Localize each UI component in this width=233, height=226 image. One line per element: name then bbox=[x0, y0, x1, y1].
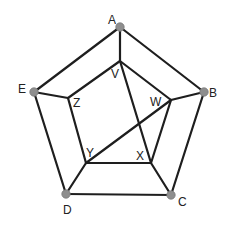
edge-w-x bbox=[151, 100, 171, 163]
vertex-label-e: E bbox=[18, 82, 26, 96]
edge-e-z bbox=[34, 92, 68, 98]
edge-c-d bbox=[66, 194, 171, 195]
edge-w-y bbox=[86, 100, 171, 163]
vertex-label-x: X bbox=[136, 149, 144, 163]
vertex-label-b: B bbox=[209, 86, 217, 100]
edge-b-w bbox=[171, 92, 204, 100]
graph-diagram: ABCDEVWXYZ bbox=[0, 0, 233, 226]
vertex-a bbox=[116, 23, 124, 31]
vertex-label-y: Y bbox=[86, 146, 94, 160]
vertex-c bbox=[167, 191, 175, 199]
vertex-label-c: C bbox=[178, 195, 187, 209]
edge-b-c bbox=[171, 92, 204, 195]
vertex-d bbox=[62, 190, 70, 198]
edge-v-w bbox=[120, 61, 171, 100]
edge-d-e bbox=[34, 92, 66, 194]
vertex-e bbox=[30, 88, 38, 96]
edge-d-y bbox=[66, 163, 86, 194]
vertex-label-w: W bbox=[150, 95, 162, 109]
label-layer: ABCDEVWXYZ bbox=[18, 13, 217, 217]
edge-e-a bbox=[34, 27, 120, 92]
vertex-b bbox=[200, 88, 208, 96]
vertex-label-a: A bbox=[108, 13, 116, 27]
edge-c-x bbox=[151, 163, 171, 195]
vertex-label-d: D bbox=[63, 203, 72, 217]
edge-v-x bbox=[120, 61, 151, 163]
vertex-label-v: V bbox=[111, 67, 119, 81]
edge-layer bbox=[34, 27, 204, 195]
vertex-label-z: Z bbox=[73, 96, 80, 110]
edge-a-b bbox=[120, 27, 204, 92]
